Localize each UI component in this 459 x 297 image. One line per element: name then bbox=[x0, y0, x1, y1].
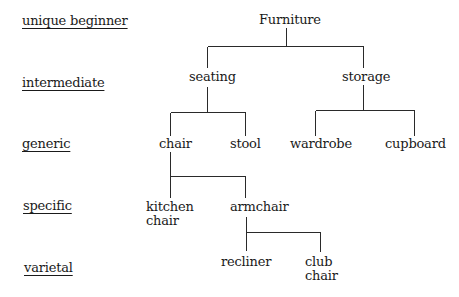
node-cupboard: cupboard bbox=[385, 137, 446, 151]
node-recliner: recliner bbox=[221, 255, 271, 269]
node-club-chair-line2: chair bbox=[305, 269, 338, 283]
node-club-chair: club chair bbox=[305, 255, 338, 283]
node-chair: chair bbox=[159, 137, 192, 151]
node-kitchen-chair-line1: kitchen bbox=[146, 200, 194, 214]
node-seating: seating bbox=[189, 70, 236, 84]
node-furniture: Furniture bbox=[259, 13, 321, 27]
node-wardrobe: wardrobe bbox=[290, 137, 352, 151]
node-kitchen-chair-line2: chair bbox=[146, 214, 194, 228]
node-club-chair-line1: club bbox=[305, 255, 338, 269]
node-kitchen-chair: kitchen chair bbox=[146, 200, 194, 228]
node-armchair: armchair bbox=[230, 200, 288, 214]
node-stool: stool bbox=[230, 137, 261, 151]
node-storage: storage bbox=[342, 70, 390, 84]
